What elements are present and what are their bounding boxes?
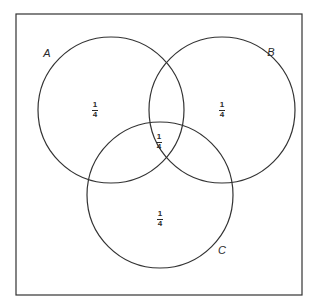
fraction-c-only: 1 4 — [157, 210, 163, 228]
numerator: 1 — [220, 101, 224, 109]
numerator: 1 — [158, 210, 162, 218]
diagram-frame — [16, 14, 302, 295]
label-a: A — [43, 47, 50, 59]
fraction-a-only: 1 4 — [92, 101, 98, 119]
label-b: B — [267, 46, 274, 58]
numerator: 1 — [93, 101, 97, 109]
fraction-abc: 1 4 — [156, 133, 162, 151]
fraction-b-only: 1 4 — [219, 101, 225, 119]
circle-a — [38, 37, 184, 183]
denominator: 4 — [157, 143, 161, 151]
label-c: C — [218, 244, 226, 256]
denominator: 4 — [93, 111, 97, 119]
denominator: 4 — [158, 220, 162, 228]
denominator: 4 — [220, 111, 224, 119]
numerator: 1 — [157, 133, 161, 141]
